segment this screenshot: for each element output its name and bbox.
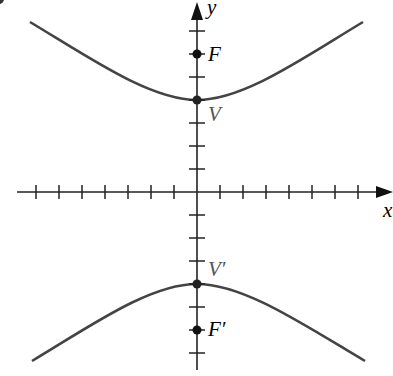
diagram-canvas (0, 0, 393, 376)
focus-F-prime-point (193, 326, 202, 335)
lower-branch-curve (32, 284, 365, 361)
focus-F-point (193, 50, 202, 59)
focus-F-prime-label: F′ (208, 319, 225, 340)
vertex-V-label: V (208, 104, 221, 125)
y-axis-arrow-icon (191, 2, 203, 20)
y-axis-label: y (207, 0, 216, 18)
vertex-V-point (193, 96, 202, 105)
vertex-V-prime-label: V′ (208, 259, 225, 280)
vertex-V-prime-point (193, 280, 202, 289)
x-axis-arrow-icon (376, 186, 393, 198)
focus-F-label: F (208, 44, 221, 65)
x-axis-label: x (383, 200, 392, 221)
hyperbola-diagram: y x F V V′ F′ (0, 0, 393, 376)
